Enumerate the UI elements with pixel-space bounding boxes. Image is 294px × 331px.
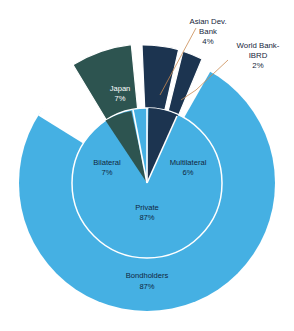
label-multilateral-pct: 6% <box>183 168 194 177</box>
label-world-bank-line1: World Bank- <box>237 41 280 50</box>
label-bondholders-pct: 87% <box>139 282 154 291</box>
label-asian-dev-bank-line2: Bank <box>199 27 217 36</box>
pie-chart-figure: Asian Dev. Bank 4% World Bank- IBRD 2% J… <box>0 0 294 331</box>
label-asian-dev-bank-pct: 4% <box>202 37 213 46</box>
label-bilateral-name: Bilateral <box>93 158 121 167</box>
label-asian-dev-bank-line1: Asian Dev. <box>189 17 226 26</box>
label-private-pct: 87% <box>139 213 154 222</box>
label-bilateral-pct: 7% <box>102 168 113 177</box>
label-private-name: Private <box>135 203 159 212</box>
label-japan-pct: 7% <box>115 94 126 103</box>
label-multilateral-name: Multilateral <box>170 158 207 167</box>
label-japan-name: Japan <box>110 84 131 93</box>
inner-ring-group <box>72 108 222 258</box>
label-world-bank-pct: 2% <box>252 61 263 70</box>
pie-chart-svg: Asian Dev. Bank 4% World Bank- IBRD 2% J… <box>0 0 294 331</box>
label-world-bank-line2: IBRD <box>249 51 268 60</box>
label-bondholders-name: Bondholders <box>126 271 169 280</box>
